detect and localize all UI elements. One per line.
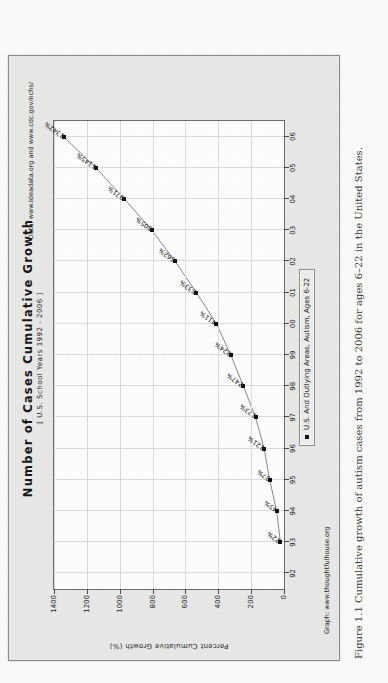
gridline-vertical xyxy=(54,510,284,511)
x-axis-tick-mark xyxy=(284,416,289,417)
gridline-horizontal xyxy=(251,121,252,589)
x-axis-tick-label: 98 xyxy=(289,382,297,391)
legend-label: U.S. And Outlying Areas, Autism, Ages 6-… xyxy=(303,278,311,430)
chart-legend: U.S. And Outlying Areas, Autism, Ages 6-… xyxy=(299,269,315,446)
x-axis-tick-mark xyxy=(284,292,289,293)
x-axis-tick-label: 99 xyxy=(289,351,297,360)
x-axis-tick-label: 96 xyxy=(289,444,297,453)
y-axis-tick-label: 1200 xyxy=(83,595,91,613)
y-axis-label: Percent Cumulative Growth (%) xyxy=(53,638,285,654)
x-axis-tick-mark xyxy=(284,448,289,449)
y-axis-tick-label: 0 xyxy=(280,595,288,599)
x-axis-tick-label: 01 xyxy=(289,288,297,297)
x-axis-tick-label: 04 xyxy=(289,195,297,204)
gridline-vertical xyxy=(54,198,284,199)
gridline-horizontal xyxy=(54,121,55,589)
gridline-horizontal xyxy=(218,121,219,589)
gridline-vertical xyxy=(54,448,284,449)
plot-area: 0200400600800100012001400929394959697989… xyxy=(53,120,285,590)
y-axis-tick-mark xyxy=(120,589,121,594)
gridline-vertical xyxy=(54,292,284,293)
x-axis-tick-label: 00 xyxy=(289,319,297,328)
x-axis-tick-label: 93 xyxy=(289,538,297,547)
y-axis-tick-mark xyxy=(185,589,186,594)
x-axis-tick-mark xyxy=(284,198,289,199)
x-axis-tick-mark xyxy=(284,541,289,542)
y-axis-tick-mark xyxy=(87,589,88,594)
x-axis-tick-mark xyxy=(284,229,289,230)
x-axis-tick-label: 92 xyxy=(289,569,297,578)
data-source-note: Data: www.ideadata.org and www.cdc.gov/n… xyxy=(27,82,35,239)
x-axis-tick-mark xyxy=(284,167,289,168)
x-axis-tick-label: 94 xyxy=(289,507,297,516)
data-line xyxy=(54,121,284,589)
x-axis-tick-mark xyxy=(284,385,289,386)
x-axis-tick-mark xyxy=(284,510,289,511)
y-axis-label-text: Percent Cumulative Growth (%) xyxy=(109,642,228,650)
y-axis-tick-label: 200 xyxy=(247,595,255,608)
gridline-vertical xyxy=(54,323,284,324)
y-axis-tick-mark xyxy=(284,589,285,594)
rotated-page-wrapper: Number of Cases Cumulative Growth [ U.S.… xyxy=(0,0,388,683)
x-axis-tick-mark xyxy=(284,136,289,137)
gridline-vertical xyxy=(54,354,284,355)
x-axis-tick-label: 06 xyxy=(289,132,297,141)
x-axis-tick-mark xyxy=(284,323,289,324)
x-axis-tick-label: 03 xyxy=(289,226,297,235)
x-axis-tick-label: 95 xyxy=(289,475,297,484)
graph-source-note: Graph: www.thoughtfulhouse.org xyxy=(323,526,331,634)
legend-marker-icon xyxy=(305,435,309,439)
y-axis-tick-mark xyxy=(218,589,219,594)
y-axis-tick-mark xyxy=(251,589,252,594)
gridline-horizontal xyxy=(153,121,154,589)
y-axis-tick-mark xyxy=(153,589,154,594)
x-axis-tick-mark xyxy=(284,572,289,573)
gridline-vertical xyxy=(54,229,284,230)
y-axis-tick-label: 400 xyxy=(214,595,222,608)
y-axis-tick-label: 600 xyxy=(181,595,189,608)
gridline-horizontal xyxy=(87,121,88,589)
chart-figure-box: Number of Cases Cumulative Growth [ U.S.… xyxy=(8,55,340,661)
gridline-vertical xyxy=(54,136,284,137)
chart-subtitle: [ U.S. School Years 1992 - 2006 ] xyxy=(36,56,44,660)
y-axis-tick-label: 1400 xyxy=(50,595,58,613)
y-axis-tick-label: 800 xyxy=(149,595,157,608)
x-axis-tick-label: 02 xyxy=(289,257,297,266)
x-axis-tick-label: 97 xyxy=(289,413,297,422)
y-axis-tick-mark xyxy=(54,589,55,594)
gridline-vertical xyxy=(54,385,284,386)
figure-caption: Figure 1.1 Cumulative growth of autism c… xyxy=(352,19,365,659)
x-axis-tick-mark xyxy=(284,260,289,261)
scanned-book-page: Number of Cases Cumulative Growth [ U.S.… xyxy=(0,0,388,683)
x-axis-tick-mark xyxy=(284,479,289,480)
gridline-vertical xyxy=(54,541,284,542)
gridline-horizontal xyxy=(185,121,186,589)
x-axis-tick-label: 05 xyxy=(289,163,297,172)
gridline-vertical xyxy=(54,572,284,573)
gridline-vertical xyxy=(54,479,284,480)
y-axis-tick-label: 1000 xyxy=(116,595,124,613)
x-axis-tick-mark xyxy=(284,354,289,355)
